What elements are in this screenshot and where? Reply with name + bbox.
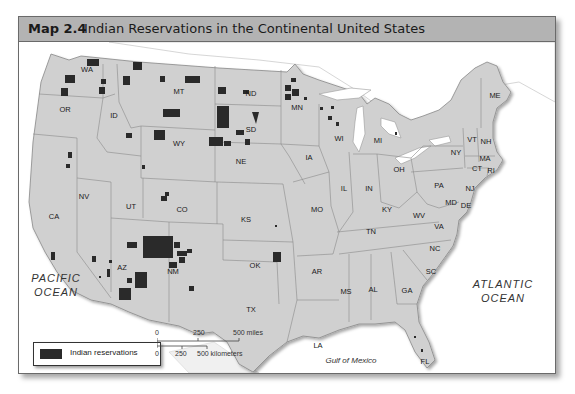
state-label-sd: SD	[246, 125, 257, 134]
reservation-swatch	[40, 349, 62, 359]
state-label-or: OR	[59, 105, 71, 114]
state-label-de: DE	[461, 201, 471, 210]
map-area: WAORIDMTWYNDSDNEMNWIMIIAILINOHKYTNMOKSCO…	[19, 42, 555, 373]
scale-miles-0: 0	[155, 329, 159, 336]
state-label-ut: UT	[126, 202, 136, 211]
state-label-az: AZ	[117, 263, 127, 272]
state-label-ms: MS	[340, 287, 351, 296]
state-label-ri: RI	[487, 166, 495, 175]
state-label-md: MD	[445, 198, 457, 207]
state-label-mt: MT	[174, 87, 185, 96]
pacific-label-2: OCEAN	[34, 286, 78, 298]
state-label-ma: MA	[479, 154, 490, 163]
state-label-in: IN	[365, 184, 373, 193]
gulf-of-mexico-label: Gulf of Mexico	[325, 356, 377, 365]
state-label-ok: OK	[250, 261, 261, 270]
state-label-ia: IA	[305, 153, 312, 162]
state-label-wv: WV	[413, 211, 425, 220]
map-title: Indian Reservations in the Continental U…	[84, 21, 425, 36]
state-label-tn: TN	[366, 227, 376, 236]
state-label-tx: TX	[246, 305, 256, 314]
state-label-sc: SC	[426, 267, 437, 276]
scale-miles-250: 250	[193, 329, 205, 336]
scale-km-500: 500 kilometers	[197, 350, 243, 357]
state-label-mn: MN	[291, 103, 303, 112]
state-label-fl: FL	[421, 357, 430, 366]
state-label-il: IL	[341, 184, 347, 193]
legend: Indian reservations	[33, 342, 161, 366]
scale-km-0: 0	[155, 350, 159, 357]
state-label-co: CO	[176, 205, 187, 214]
state-label-nj: NJ	[465, 184, 474, 193]
pacific-label-1: PACIFIC	[31, 272, 81, 284]
state-label-ky: KY	[382, 205, 392, 214]
atlantic-label-1: ATLANTIC	[472, 278, 533, 290]
scale-km-250: 250	[175, 350, 187, 357]
state-label-la: LA	[313, 341, 322, 350]
legend-label: Indian reservations	[70, 348, 138, 357]
state-label-pa: PA	[434, 181, 443, 190]
state-label-ny: NY	[451, 148, 461, 157]
state-label-ca: CA	[49, 212, 59, 221]
scale-miles-500: 500 miles	[233, 329, 263, 336]
state-label-wi: WI	[334, 134, 343, 143]
state-label-nd: ND	[246, 89, 257, 98]
state-label-mi: MI	[374, 136, 382, 145]
state-label-ks: KS	[241, 215, 251, 224]
state-label-mo: MO	[311, 205, 323, 214]
state-label-nh: NH	[481, 137, 492, 146]
state-label-nc: NC	[430, 244, 441, 253]
state-label-me: ME	[489, 91, 500, 100]
state-label-al: AL	[368, 285, 377, 294]
us-map: WAORIDMTWYNDSDNEMNWIMIIAILINOHKYTNMOKSCO…	[19, 42, 555, 373]
state-label-vt: VT	[467, 135, 477, 144]
map-figure: Map 2.4 Indian Reservations in the Conti…	[18, 16, 556, 374]
title-bar: Map 2.4 Indian Reservations in the Conti…	[19, 17, 555, 42]
state-label-wy: WY	[173, 139, 185, 148]
map-number: Map 2.4	[28, 21, 87, 36]
state-label-ga: GA	[402, 286, 413, 295]
atlantic-label-2: OCEAN	[481, 292, 525, 304]
state-label-wa: WA	[81, 65, 93, 74]
state-label-va: VA	[434, 222, 443, 231]
scale-bar: 0 250 500 miles 0 250 500 kilometers	[155, 329, 285, 369]
state-label-nm: NM	[167, 267, 179, 276]
state-label-oh: OH	[393, 165, 404, 174]
state-label-nv: NV	[79, 192, 89, 201]
state-label-ne: NE	[236, 157, 246, 166]
state-label-id: ID	[110, 111, 118, 120]
state-label-ct: CT	[472, 164, 482, 173]
state-label-ar: AR	[312, 267, 323, 276]
